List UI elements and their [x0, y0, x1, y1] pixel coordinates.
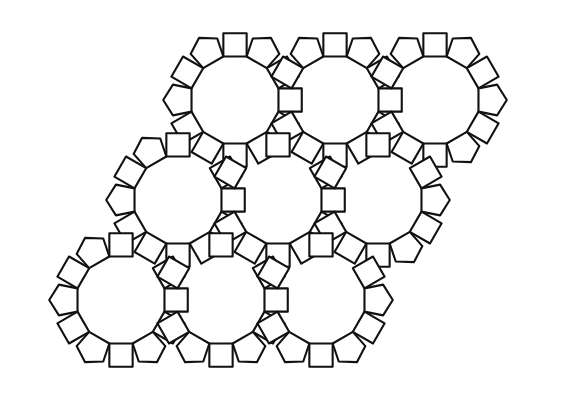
square-tile	[264, 288, 287, 311]
square-tile	[423, 33, 446, 56]
square-tile	[309, 233, 332, 256]
square-tile	[166, 133, 189, 156]
square-tile	[309, 343, 332, 366]
figure-root	[0, 0, 562, 403]
square-tile	[209, 343, 232, 366]
square-tile	[221, 188, 244, 211]
square-tile	[366, 133, 389, 156]
tessellation-figure	[0, 0, 562, 403]
square-tile	[321, 188, 344, 211]
square-tile	[378, 88, 401, 111]
square-tile	[109, 343, 132, 366]
square-tile	[164, 288, 187, 311]
square-tile	[323, 33, 346, 56]
square-tile	[109, 233, 132, 256]
square-tile	[223, 33, 246, 56]
square-tile	[278, 88, 301, 111]
square-tile	[209, 233, 232, 256]
square-tile	[266, 133, 289, 156]
